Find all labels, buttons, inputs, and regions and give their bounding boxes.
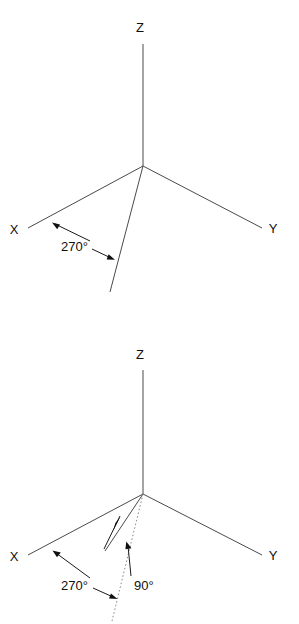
y-axis-label-2: Y — [269, 548, 278, 563]
diagram-bottom-canvas: Z X Y 270° 90° — [0, 312, 299, 624]
y-axis-line — [143, 166, 262, 228]
y-axis-line-2 — [143, 494, 262, 555]
diagram-page: Z X Y 270° — [0, 0, 299, 624]
z-axis-label-2: Z — [136, 347, 144, 362]
angle-270-arrowhead-x — [52, 222, 60, 229]
angle-270-arrowhead-x-2 — [53, 550, 61, 557]
x-axis-label: X — [10, 222, 19, 237]
rotated-ray-solid-line — [105, 494, 143, 551]
x-axis-label-2: X — [10, 549, 19, 564]
angle-270-leader-to-x-axis-2 — [56, 553, 90, 578]
diagram-top: Z X Y 270° — [0, 0, 299, 312]
angle-270-label-2: 270° — [61, 578, 88, 593]
y-axis-label: Y — [269, 221, 278, 236]
rotated-ray-dotted-line — [112, 494, 143, 621]
diagram-top-canvas: Z X Y 270° — [0, 0, 299, 312]
angle-90-label: 90° — [134, 578, 154, 593]
x-axis-line — [28, 166, 143, 228]
diagram-bottom: Z X Y 270° 90° — [0, 312, 299, 624]
z-axis-label: Z — [136, 20, 144, 35]
angle-90-arrowhead-lower — [125, 542, 131, 550]
angle-270-arrowhead-ray — [107, 254, 115, 259]
x-axis-line-2 — [28, 494, 143, 555]
rotated-ray-line — [110, 166, 143, 292]
angle-270-arrowhead-ray-2 — [109, 593, 118, 599]
angle-270-label: 270° — [61, 239, 88, 254]
angle-270-leader-to-ray-2 — [93, 588, 113, 597]
